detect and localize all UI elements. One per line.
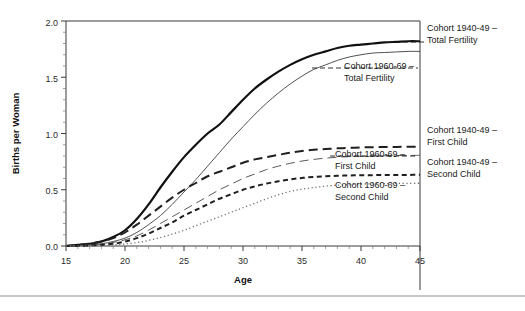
- series-label-1940-49-first-child: Cohort 1940-49 – First Child: [427, 125, 497, 147]
- series-label-6-line1: Cohort 1960-69 –: [335, 180, 405, 190]
- series-label-1-line2: Total Fertility: [427, 35, 478, 45]
- x-axis-title: Age: [234, 274, 252, 285]
- x-axis-ticklabels: 15 20 25 30 35 40 45: [61, 256, 425, 266]
- series-label-2-line1: Cohort 1960-69 –: [344, 61, 414, 71]
- y-axis-ticklabels: 0.0 0.5 1.0 1.5 2.0: [45, 18, 58, 252]
- x-axis-ticks: [66, 246, 420, 251]
- series-label-4-line1: Cohort 1960-69 –: [335, 149, 405, 159]
- series-label-1940-49-second-child: Cohort 1940-49 – Second Child: [427, 157, 497, 179]
- series-label-6-line2: Second Child: [335, 192, 389, 202]
- series-label-5-line1: Cohort 1940-49 –: [427, 157, 497, 167]
- x-ticklabel-4: 35: [297, 256, 307, 266]
- series-label-3-line2: First Child: [427, 137, 468, 147]
- series-label-1960-69-second-child: Cohort 1960-69 – Second Child: [335, 180, 405, 202]
- series-label-3-line1: Cohort 1940-49 –: [427, 125, 497, 135]
- y-ticklabel-3: 1.5: [45, 74, 58, 84]
- x-ticklabel-0: 15: [61, 256, 71, 266]
- x-ticklabel-1: 20: [120, 256, 130, 266]
- y-axis-title: Births per Woman: [10, 92, 21, 174]
- y-axis-ticks: [61, 21, 66, 246]
- x-ticklabel-5: 40: [356, 256, 366, 266]
- series-label-1960-69-first-child: Cohort 1960-69 – First Child: [330, 149, 418, 171]
- data-series-group: [66, 41, 420, 246]
- series-label-4-line2: First Child: [335, 161, 376, 171]
- series-label-1-line1: Cohort 1940-49 –: [427, 23, 497, 33]
- y-ticklabel-1: 0.5: [45, 186, 58, 196]
- series-label-2-line2: Total Fertility: [344, 73, 395, 83]
- series-line-1: [66, 41, 420, 246]
- x-ticklabel-3: 30: [238, 256, 248, 266]
- figure-container: 0.0 0.5 1.0 1.5 2.0 15 20 25 30 35 40 45…: [0, 0, 525, 311]
- series-label-5-line2: Second Child: [427, 169, 481, 179]
- y-ticklabel-4: 2.0: [45, 18, 58, 28]
- x-ticklabel-2: 25: [179, 256, 189, 266]
- fertility-line-chart: 0.0 0.5 1.0 1.5 2.0 15 20 25 30 35 40 45…: [0, 0, 525, 311]
- x-ticklabel-6: 45: [415, 256, 425, 266]
- y-ticklabel-2: 1.0: [45, 130, 58, 140]
- y-ticklabel-0: 0.0: [45, 242, 58, 252]
